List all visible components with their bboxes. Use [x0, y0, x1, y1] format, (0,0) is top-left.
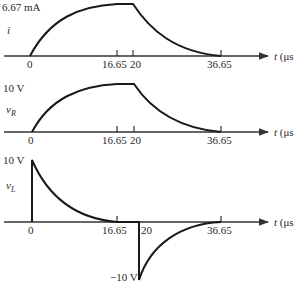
current-curve	[30, 4, 221, 56]
peak-label-current: 6.67 mA	[2, 1, 41, 13]
tick-label-36-65: 36.65	[207, 224, 232, 236]
waveform-diagram: 6.67 mA i 0 16.65 20 36.65 t (μs 10 V vR…	[0, 0, 295, 289]
peak-label-vl: 10 V	[3, 154, 25, 166]
panel-resistor-voltage: 10 V vR 0 16.65 20 36.65 t (μs	[3, 82, 294, 146]
tick-label-16-65: 16.65	[102, 134, 127, 146]
panel-current: 6.67 mA i 0 16.65 20 36.65 t (μs	[2, 1, 294, 70]
tick-label-0: 0	[27, 58, 33, 70]
panel-inductor-voltage: 10 V vL 0 16.65 20 36.65 t (μs −10 V	[3, 154, 294, 283]
time-axis-label: t (μs	[274, 50, 294, 63]
tick-label-20: 20	[130, 58, 142, 70]
vr-curve	[32, 84, 221, 132]
tick-label-20: 20	[130, 134, 142, 146]
tick-label-16-65: 16.65	[102, 224, 127, 236]
time-axis-label: t (μs	[274, 216, 294, 229]
tick-label-20: 20	[141, 224, 153, 236]
tick-label-0: 0	[28, 134, 34, 146]
neg-label-vl: −10 V	[110, 271, 138, 283]
tick-label-16-65: 16.65	[102, 58, 127, 70]
tick-label-0: 0	[28, 224, 34, 236]
time-axis-label: t (μs	[274, 126, 294, 139]
variable-label-vl: vL	[6, 179, 16, 194]
tick-label-36-65: 36.65	[207, 58, 232, 70]
variable-label-vr: vR	[6, 103, 16, 118]
tick-label-36-65: 36.65	[207, 134, 232, 146]
peak-label-vr: 10 V	[3, 82, 25, 94]
vl-curve	[32, 160, 221, 280]
variable-label-i: i	[7, 24, 10, 36]
